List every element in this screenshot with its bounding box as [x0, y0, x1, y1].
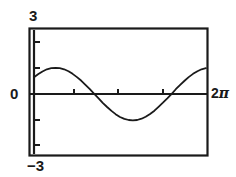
- plot-canvas: [0, 0, 236, 177]
- graph-figure: 3 0 −3 2π: [0, 0, 236, 177]
